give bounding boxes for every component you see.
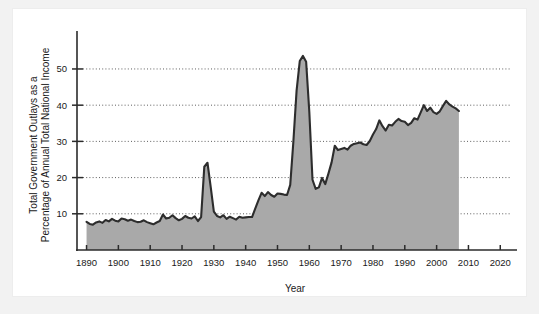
x-tick-label-1940: 1940	[235, 257, 256, 268]
x-tick-label-1890: 1890	[76, 257, 97, 268]
y-axis-title-line-1: Total Government Outlays as a	[28, 76, 39, 214]
y-tick-label-30: 30	[56, 136, 67, 147]
y-axis-ticks: 1020304050	[56, 63, 83, 219]
x-tick-label-1910: 1910	[140, 257, 161, 268]
chart-plot: 1890190019101920193019401950196019701980…	[13, 9, 526, 296]
y-tick-label-10: 10	[56, 208, 67, 219]
x-tick-label-1930: 1930	[203, 257, 224, 268]
y-tick-label-50: 50	[56, 63, 67, 74]
chart-panel: 1890190019101920193019401950196019701980…	[13, 9, 526, 296]
y-tick-label-20: 20	[56, 172, 67, 183]
y-tick-label-40: 40	[56, 100, 67, 111]
x-tick-label-1980: 1980	[362, 257, 383, 268]
x-tick-label-1920: 1920	[171, 257, 192, 268]
x-tick-label-2020: 2020	[490, 257, 511, 268]
x-tick-label-2000: 2000	[426, 257, 447, 268]
data-series-area	[87, 56, 459, 250]
x-tick-label-1970: 1970	[331, 257, 352, 268]
figure-root: 1890190019101920193019401950196019701980…	[0, 0, 539, 314]
x-tick-label-1950: 1950	[267, 257, 288, 268]
x-tick-label-2010: 2010	[458, 257, 479, 268]
x-axis-title: Year	[285, 283, 306, 294]
x-tick-label-1900: 1900	[108, 257, 129, 268]
y-axis-title-line-2: Percentage of Annual Total National Inco…	[40, 47, 51, 242]
x-tick-label-1960: 1960	[299, 257, 320, 268]
x-tick-label-1990: 1990	[394, 257, 415, 268]
